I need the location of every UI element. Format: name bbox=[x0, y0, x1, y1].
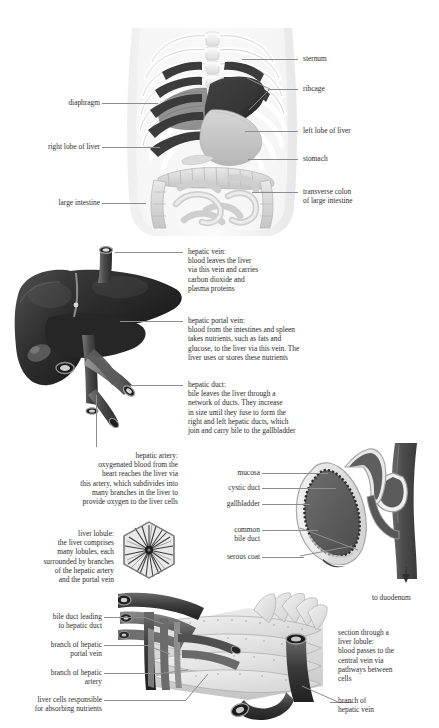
label-to-duodenum: to duodenum bbox=[372, 593, 438, 602]
label-right-lobe-of-liver: right lobe of liver bbox=[6, 142, 100, 151]
text-hepatic-portal-vein-heading: hepatic portal vein: bbox=[188, 316, 348, 325]
label-serous-coat: serous coat bbox=[188, 552, 260, 561]
text-liver-lobule-heading: liver lobule: bbox=[14, 529, 114, 538]
leader-right-lobe bbox=[102, 147, 160, 148]
label-common-bile-duct: common bile duct bbox=[188, 525, 260, 543]
label-diaphragm: diaphragm bbox=[10, 98, 100, 107]
liver-illustration bbox=[8, 243, 193, 428]
leader-mucosa bbox=[262, 473, 328, 474]
label-sternum: sternum bbox=[303, 54, 423, 63]
leader-branch-hepatic-vein-angle bbox=[300, 684, 340, 710]
text-hepatic-artery-body: oxygenated blood from the heart reaches … bbox=[8, 460, 178, 506]
text-hepatic-portal-vein-body: blood from the intestines and spleen tak… bbox=[188, 325, 363, 362]
label-liver-cells: liver cells responsible for absorbing nu… bbox=[6, 695, 102, 713]
leader-bile-duct-angle bbox=[300, 520, 360, 566]
leader-hepatic-artery bbox=[96, 395, 97, 447]
figure-page: diaphragm right lobe of liver large inte… bbox=[0, 0, 439, 728]
leader-large-intestine bbox=[102, 203, 146, 204]
label-transverse-colon: transverse colon of large intestine bbox=[303, 187, 433, 205]
label-branch-hepatic-vein: branch of hepatic vein bbox=[338, 696, 434, 714]
label-cystic-duct: cystic duct bbox=[188, 483, 260, 492]
text-hepatic-duct-heading: hepatic duct: bbox=[188, 380, 348, 389]
label-gallbladder: gallbladder bbox=[188, 499, 260, 508]
leader-hepatic-duct bbox=[130, 385, 183, 386]
text-hepatic-duct-body: bile leaves the liver through a network … bbox=[188, 389, 368, 435]
label-stomach: stomach bbox=[303, 154, 423, 163]
leader-serous-coat bbox=[262, 557, 304, 558]
leader-transverse-colon bbox=[252, 192, 298, 193]
label-large-intestine: large intestine bbox=[10, 198, 100, 207]
leader-hepatic-portal-vein bbox=[120, 321, 183, 322]
text-hepatic-artery-heading: hepatic artery: bbox=[18, 451, 178, 460]
leader-gallbladder bbox=[262, 504, 310, 505]
label-ribcage: ribcage bbox=[303, 84, 423, 93]
leader-stomach bbox=[248, 159, 298, 160]
leader-diaphragm bbox=[102, 103, 158, 104]
text-liver-lobule-body: the liver comprises many lobules, each s… bbox=[4, 538, 114, 584]
leader-left-lobe bbox=[245, 131, 298, 132]
text-hepatic-vein-heading: hepatic vein: bbox=[188, 247, 308, 256]
label-left-lobe-of-liver: left lobe of liver bbox=[303, 126, 431, 135]
leader-hepatic-vein bbox=[115, 252, 183, 253]
leader-sternum bbox=[242, 59, 298, 60]
leader-cystic-duct bbox=[262, 488, 336, 489]
label-bile-duct-leading: bile duct leading to hepatic duct bbox=[18, 612, 102, 630]
label-branch-hepatic-artery: branch of hepatic artery bbox=[18, 668, 102, 686]
label-mucosa: mucosa bbox=[188, 468, 260, 477]
leader-ribcage-fork bbox=[225, 70, 275, 115]
label-section-through-lobule: section through a liver lobule: blood pa… bbox=[338, 628, 434, 683]
leader-bottom-angles bbox=[140, 612, 210, 712]
text-hepatic-vein-body: blood leaves the liver via this vein and… bbox=[188, 256, 313, 293]
label-branch-hepatic-portal-vein: branch of hepatic portal vein bbox=[18, 640, 102, 658]
liver-lobule-micrograph bbox=[118, 520, 180, 582]
